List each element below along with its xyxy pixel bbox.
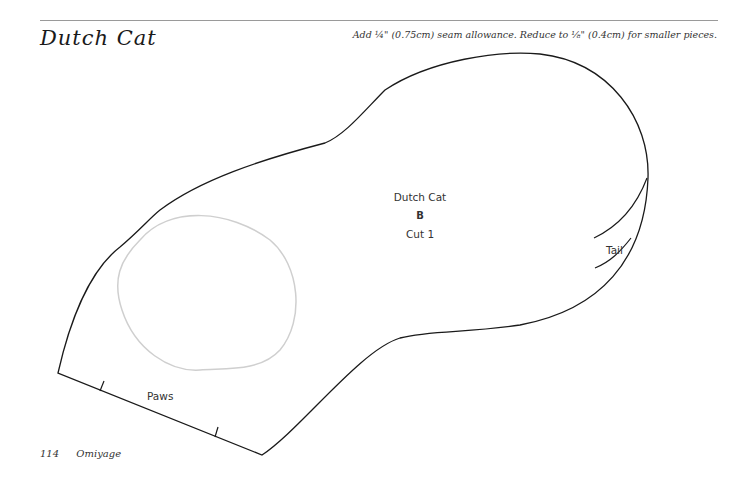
cut-instruction: Cut 1 <box>380 228 460 240</box>
pattern-piece-outline <box>0 0 753 479</box>
page-footer: 114 Omiyage <box>40 448 121 459</box>
paws-label: Paws <box>147 390 173 402</box>
tail-label: Tail <box>606 244 623 256</box>
paws-notch-right <box>215 427 218 437</box>
placement-guide-circle <box>118 216 296 371</box>
pattern-piece-name: Dutch Cat <box>380 191 460 203</box>
pattern-piece-letter: B <box>380 210 460 221</box>
page-number: 114 <box>40 448 59 459</box>
paws-notch-left <box>100 381 104 391</box>
book-title: Omiyage <box>76 448 121 459</box>
